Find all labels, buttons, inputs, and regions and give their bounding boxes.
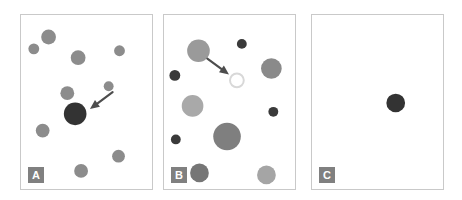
- distractor-circle: [112, 150, 125, 163]
- arrow-shaft: [207, 59, 223, 70]
- target-circle: [64, 102, 87, 125]
- target-circle: [230, 73, 244, 87]
- panel-a: A: [20, 14, 153, 190]
- distractor-circle: [114, 45, 125, 56]
- target-pointer-arrow: [207, 59, 229, 75]
- panel-label-c: C: [319, 167, 335, 183]
- distractor-circle: [257, 166, 276, 185]
- distractor-circle: [169, 70, 180, 81]
- target-circle: [386, 94, 405, 113]
- distractor-circle: [71, 50, 86, 65]
- figure-container: ABC: [0, 0, 462, 200]
- distractor-circle: [268, 107, 278, 117]
- distractor-circle: [104, 81, 114, 91]
- panel-label-a: A: [28, 167, 44, 183]
- distractor-circle: [41, 30, 56, 45]
- distractor-circle: [60, 86, 74, 100]
- target-pointer-arrow: [90, 92, 113, 109]
- distractor-circle: [261, 58, 282, 79]
- distractor-circle: [28, 43, 39, 54]
- distractor-circle: [182, 95, 204, 117]
- distractor-circle: [74, 164, 88, 178]
- panel-c-stimulus-field: [312, 15, 443, 189]
- panel-b-stimulus-field: [164, 15, 295, 189]
- panel-a-stimulus-field: [21, 15, 152, 189]
- distractor-circle: [237, 39, 247, 49]
- distractor-circle: [171, 135, 181, 145]
- distractor-circle: [190, 164, 209, 183]
- arrow-shaft: [96, 92, 113, 104]
- panel-label-b: B: [171, 167, 187, 183]
- distractor-circle: [213, 123, 241, 151]
- distractor-circle: [36, 124, 50, 138]
- panel-b: B: [163, 14, 296, 190]
- panel-c: C: [311, 14, 444, 190]
